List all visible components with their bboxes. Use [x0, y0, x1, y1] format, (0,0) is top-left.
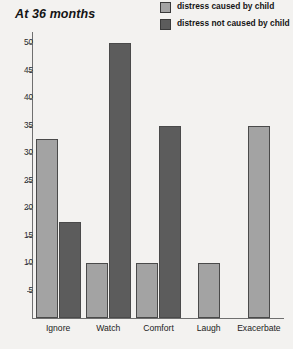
bar-group-comfort [133, 32, 183, 318]
bar-group-laugh [184, 32, 234, 318]
bar-watch-not-caused [109, 43, 131, 318]
bar-ignore-not-caused [59, 222, 81, 318]
bar-ignore-caused [36, 139, 58, 318]
bar-watch-caused [86, 263, 108, 318]
bars-container [33, 32, 284, 318]
x-axis-label-exacerbate: Exacerbate [234, 323, 284, 333]
bar-chart: At 36 months distress caused by child di… [0, 0, 293, 349]
x-axis-label-ignore: Ignore [33, 323, 83, 333]
x-axis-label-comfort: Comfort [133, 323, 183, 333]
bar-comfort-not-caused [159, 126, 181, 319]
bar-laugh-caused [198, 263, 220, 318]
plot-area: 5101520253035404550 IgnoreWatchComfortLa… [0, 0, 293, 349]
bar-group-exacerbate [234, 32, 284, 318]
x-axis-label-laugh: Laugh [184, 323, 234, 333]
x-axis-label-watch: Watch [83, 323, 133, 333]
bar-comfort-caused [136, 263, 158, 318]
bar-exacerbate-caused [248, 126, 270, 319]
bar-group-watch [83, 32, 133, 318]
x-axis-line [32, 318, 284, 319]
bar-group-ignore [33, 32, 83, 318]
